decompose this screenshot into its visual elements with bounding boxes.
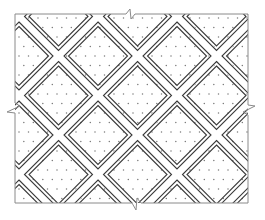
diamond-outer xyxy=(0,62,14,130)
diamond-outer xyxy=(183,62,251,130)
diamond-outer xyxy=(143,0,211,11)
diamond-outer xyxy=(64,101,132,169)
figure-caption xyxy=(0,212,264,220)
diamond-outer xyxy=(0,0,14,51)
diamond-outer xyxy=(0,141,14,209)
diamond-outer xyxy=(262,141,265,209)
hatch-pattern-figure xyxy=(0,0,264,220)
diamond-inner xyxy=(0,145,9,204)
diamond-lattice xyxy=(0,0,264,220)
diamond-outer xyxy=(25,141,93,209)
diamond-outer xyxy=(262,62,265,130)
diamond-outer xyxy=(64,0,132,11)
diamond-outer xyxy=(143,22,211,90)
diamond-inner xyxy=(0,0,9,46)
diamond-inner xyxy=(0,0,49,7)
diamond-outer xyxy=(104,62,172,130)
diamond-inner xyxy=(148,0,207,7)
diamond-inner xyxy=(0,66,9,125)
diamond-inner xyxy=(69,0,128,7)
diamond-outer xyxy=(143,101,211,169)
diamond-inner xyxy=(227,0,265,7)
diamond-outer xyxy=(262,0,265,51)
diamond-outer xyxy=(64,22,132,90)
diamond-outer xyxy=(0,0,53,11)
diamond-outer xyxy=(222,0,264,11)
diamond-outer xyxy=(183,141,251,209)
diamond-outer xyxy=(25,62,93,130)
